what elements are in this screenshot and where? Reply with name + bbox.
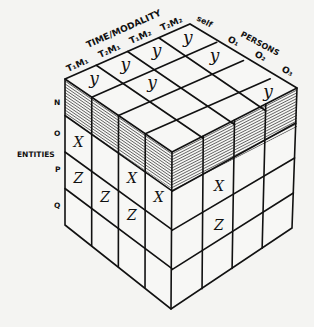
left-cell-mark: Z (73, 170, 84, 186)
left-cell-mark: Z (99, 189, 110, 205)
left-cell-mark: Z (126, 207, 137, 223)
left-cell-mark: X (72, 134, 84, 150)
right-cell-mark: X (213, 178, 225, 194)
top-cell-mark: y (182, 27, 193, 47)
right-cell-mark: Z (213, 217, 224, 233)
person-label-3: O₃ (280, 64, 295, 78)
entity-label-q: Q (54, 201, 60, 210)
entity-label-n: N (54, 98, 60, 107)
top-cell-mark: y (151, 40, 162, 60)
entity-cube-diagram: yyyyyyyXZZXZXXZ TIME/MODALITY T₁M₁ T₂M₁ … (0, 0, 314, 327)
top-cell-mark: y (209, 45, 220, 65)
top-cell-mark: y (262, 81, 273, 101)
top-cell-mark: y (146, 72, 157, 92)
top-cell-mark: y (119, 54, 130, 74)
left-cell-mark: X (126, 170, 138, 186)
entities-title: ENTITIES (17, 150, 55, 159)
person-label-0: self (195, 14, 214, 30)
entity-label-o: O (54, 129, 60, 138)
top-cell-mark: y (88, 68, 99, 88)
left-cell-mark: X (153, 189, 165, 205)
entity-label-p: P (55, 165, 61, 174)
